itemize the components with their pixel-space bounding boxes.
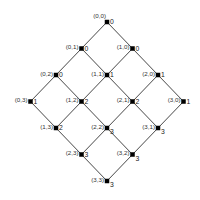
- node-marker: [156, 73, 161, 78]
- node-coordinate-label: (1,3): [40, 123, 53, 130]
- node-value: 0: [110, 18, 114, 25]
- node-marker: [105, 73, 110, 78]
- node-value: 3: [110, 128, 114, 135]
- node-value: 1: [110, 71, 114, 78]
- node-coordinate-label: (2,1): [117, 96, 130, 103]
- node-marker: [181, 99, 186, 104]
- node-marker: [156, 126, 161, 131]
- lattice-node: (0,2)0: [40, 70, 63, 79]
- node-value: 3: [85, 151, 89, 158]
- lattice-node: (1,1)1: [91, 70, 114, 79]
- node-value: 1: [34, 98, 38, 105]
- lattice-nodes: (0,0)0(0,1)0(1,0)0(0,2)0(1,1)1(2,0)1(0,3…: [15, 12, 191, 188]
- lattice-edge: [158, 102, 184, 129]
- node-value: 0: [136, 45, 140, 52]
- node-marker: [79, 99, 84, 104]
- lattice-node: (2,0)1: [142, 70, 165, 79]
- lattice-edge: [107, 155, 133, 182]
- lattice-node: (2,1)2: [117, 96, 140, 105]
- node-value: 3: [161, 128, 165, 135]
- node-value: 0: [85, 45, 89, 52]
- node-marker: [105, 179, 110, 184]
- node-marker: [105, 20, 110, 25]
- node-marker: [79, 46, 84, 51]
- lattice-edge: [107, 102, 133, 129]
- node-coordinate-label: (3,1): [142, 123, 155, 130]
- lattice-edge: [133, 128, 159, 155]
- node-value: 2: [85, 98, 89, 105]
- lattice-node: (1,2)2: [66, 96, 89, 105]
- node-coordinate-label: (1,2): [66, 96, 79, 103]
- node-marker: [130, 152, 135, 157]
- node-value: 3: [136, 155, 140, 162]
- node-marker: [130, 99, 135, 104]
- lattice-node: (3,0)1: [168, 96, 191, 105]
- node-marker: [130, 46, 135, 51]
- lattice-node: (1,3)2: [40, 123, 63, 132]
- node-coordinate-label: (1,0): [117, 43, 130, 50]
- node-coordinate-label: (0,2): [40, 70, 53, 77]
- node-coordinate-label: (2,2): [91, 123, 104, 130]
- lattice-node: (0,3)1: [15, 96, 38, 105]
- node-marker: [54, 126, 59, 131]
- node-marker: [105, 126, 110, 131]
- node-coordinate-label: (0,3): [15, 96, 28, 103]
- node-coordinate-label: (0,1): [66, 43, 79, 50]
- node-marker: [79, 152, 84, 157]
- node-marker: [54, 73, 59, 78]
- node-coordinate-label: (0,0): [93, 12, 106, 19]
- node-value: 0: [59, 71, 63, 78]
- node-coordinate-label: (3,0): [168, 96, 181, 103]
- lattice-diagram: (0,0)0(0,1)0(1,0)0(0,2)0(1,1)1(2,0)1(0,3…: [0, 0, 200, 200]
- node-value: 1: [187, 98, 191, 105]
- node-value: 3: [110, 181, 114, 188]
- node-coordinate-label: (2,3): [66, 149, 79, 156]
- node-value: 1: [161, 71, 165, 78]
- node-coordinate-label: (2,0): [142, 70, 155, 77]
- lattice-edges: [31, 22, 184, 181]
- node-value: 2: [136, 98, 140, 105]
- node-value: 2: [59, 124, 63, 131]
- node-coordinate-label: (1,1): [91, 70, 104, 77]
- lattice-node: (0,1)0: [66, 43, 89, 52]
- lattice-node: (0,0)0: [93, 12, 114, 25]
- node-coordinate-label: (3,2): [117, 149, 130, 156]
- lattice-node: (2,3)3: [66, 149, 89, 158]
- lattice-node: (1,0)0: [117, 43, 140, 52]
- node-marker: [28, 99, 33, 104]
- node-coordinate-label: (3,3): [91, 176, 104, 183]
